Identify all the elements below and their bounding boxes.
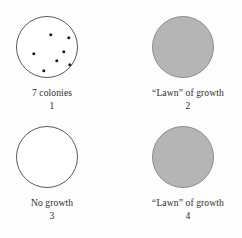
dish-wrap-1 [0, 12, 104, 80]
colony-dot [67, 36, 70, 39]
colony-dot [32, 52, 35, 55]
petri-dish-panel-4: “Lawn” of growth 4 [134, 122, 242, 238]
petri-dish-caption-2: “Lawn” of growth [134, 86, 242, 99]
petri-dish-figure: 7 colonies 1 “Lawn” of growth 2 No growt… [0, 0, 242, 238]
dish-wrap-3 [0, 122, 104, 190]
colony-dot [49, 33, 52, 36]
petri-dish-panel-2: “Lawn” of growth 2 [134, 12, 242, 128]
petri-dish-panel-1: 7 colonies 1 [0, 12, 104, 128]
petri-dish-number-4: 4 [134, 209, 242, 222]
colony-dot [42, 69, 45, 72]
petri-dish-3 [16, 126, 78, 188]
petri-dish-2 [152, 16, 214, 78]
colony-dot [55, 59, 58, 62]
dish-wrap-4 [134, 122, 238, 190]
petri-dish-caption-4: “Lawn” of growth [134, 196, 242, 209]
petri-dish-4 [152, 126, 214, 188]
petri-dish-panel-3: No growth 3 [0, 122, 104, 238]
dish-wrap-2 [134, 12, 238, 80]
petri-dish-number-2: 2 [134, 99, 242, 112]
colony-dot [62, 50, 65, 53]
petri-dish-1 [16, 16, 78, 78]
colony-dot [68, 63, 71, 66]
